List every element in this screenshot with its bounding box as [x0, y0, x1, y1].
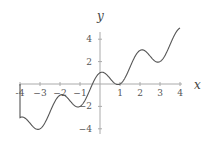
- x-axis-label: x: [194, 78, 201, 92]
- x-tick-label: 1: [117, 88, 123, 98]
- axes: -4−3−2−1123442−2−4: [16, 32, 184, 134]
- y-tick-label: 4: [86, 34, 92, 44]
- x-tick-label: 2: [137, 88, 143, 98]
- y-tick-label: 2: [86, 57, 92, 67]
- y-tick-label: −4: [79, 124, 93, 134]
- chart: -4−3−2−1123442−2−4 x y: [0, 0, 209, 143]
- x-tick-label: −3: [33, 88, 47, 98]
- x-tick-label: −2: [53, 88, 66, 98]
- x-tick-label: 3: [157, 88, 163, 98]
- x-tick-label: 4: [177, 88, 183, 98]
- y-axis-label: y: [96, 9, 104, 23]
- x-tick-label: −1: [73, 88, 86, 98]
